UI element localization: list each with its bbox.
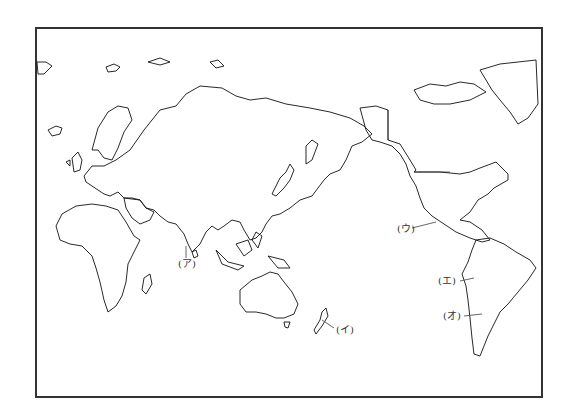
scandinavia — [92, 106, 132, 160]
greenland-west-fragment — [37, 62, 52, 74]
kamchatka — [306, 140, 318, 164]
eurasia — [84, 86, 372, 252]
canadian-arctic-islands — [414, 82, 486, 104]
great-britain — [66, 152, 82, 172]
sri-lanka — [192, 250, 198, 258]
iceland — [48, 126, 62, 136]
arabian-peninsula — [124, 198, 154, 224]
leader-line-e — [460, 278, 474, 281]
label-i: (イ) — [336, 325, 354, 335]
label-u: (ウ) — [397, 224, 415, 234]
world-map — [0, 0, 571, 417]
australia — [240, 272, 298, 318]
africa — [56, 204, 140, 312]
north-america — [360, 106, 508, 242]
label-o: (オ) — [443, 311, 461, 321]
us-canada-border — [388, 110, 450, 172]
madagascar — [142, 274, 152, 294]
leader-line-i — [322, 320, 334, 328]
new-zealand — [314, 308, 328, 334]
label-e: (エ) — [438, 276, 456, 286]
arctic-islands — [106, 58, 224, 72]
leader-line-u — [412, 222, 436, 228]
leader-line-o — [464, 314, 482, 316]
south-america — [462, 238, 536, 356]
southeast-asia-islands — [216, 232, 290, 270]
tasmania — [284, 322, 290, 328]
japan — [272, 164, 294, 196]
label-a: (ア) — [178, 259, 196, 269]
greenland — [480, 60, 538, 124]
